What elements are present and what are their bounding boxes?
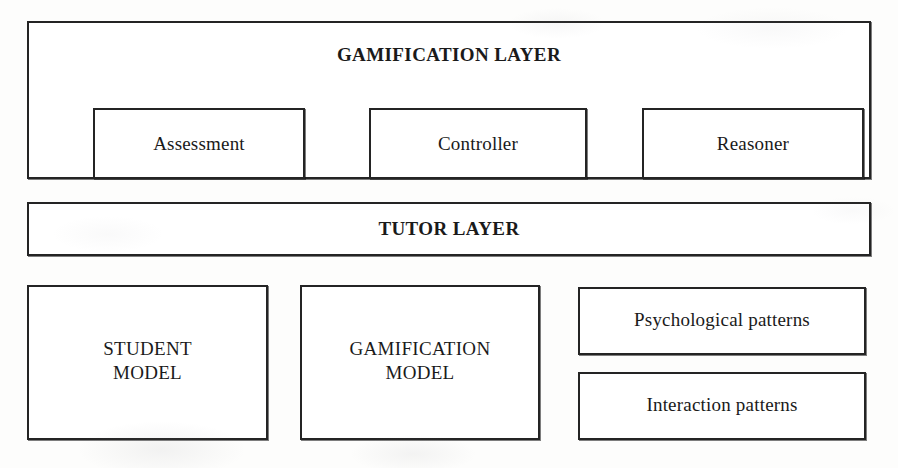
student-model-label: STUDENT MODEL (29, 336, 266, 385)
tutor-layer-box: TUTOR LAYER (27, 202, 871, 256)
gamification-model-box: GAMIFICATION MODEL (300, 285, 540, 440)
assessment-box: Assessment (93, 108, 305, 179)
reasoner-box: Reasoner (642, 108, 864, 179)
architecture-diagram: GAMIFICATION LAYER Assessment Controller… (0, 0, 898, 468)
tutor-layer-title: TUTOR LAYER (29, 217, 869, 241)
assessment-label: Assessment (95, 131, 303, 155)
psychological-patterns-box: Psychological patterns (578, 287, 866, 355)
gamification-layer-title: GAMIFICATION LAYER (29, 43, 869, 67)
reasoner-label: Reasoner (644, 131, 862, 155)
controller-box: Controller (369, 108, 587, 179)
interaction-patterns-label: Interaction patterns (580, 393, 864, 417)
gamification-model-label: GAMIFICATION MODEL (302, 336, 538, 385)
gamification-layer-box: GAMIFICATION LAYER Assessment Controller… (27, 21, 871, 179)
psychological-patterns-label: Psychological patterns (580, 308, 864, 332)
controller-label: Controller (371, 131, 585, 155)
student-model-box: STUDENT MODEL (27, 285, 268, 440)
interaction-patterns-box: Interaction patterns (578, 372, 866, 440)
